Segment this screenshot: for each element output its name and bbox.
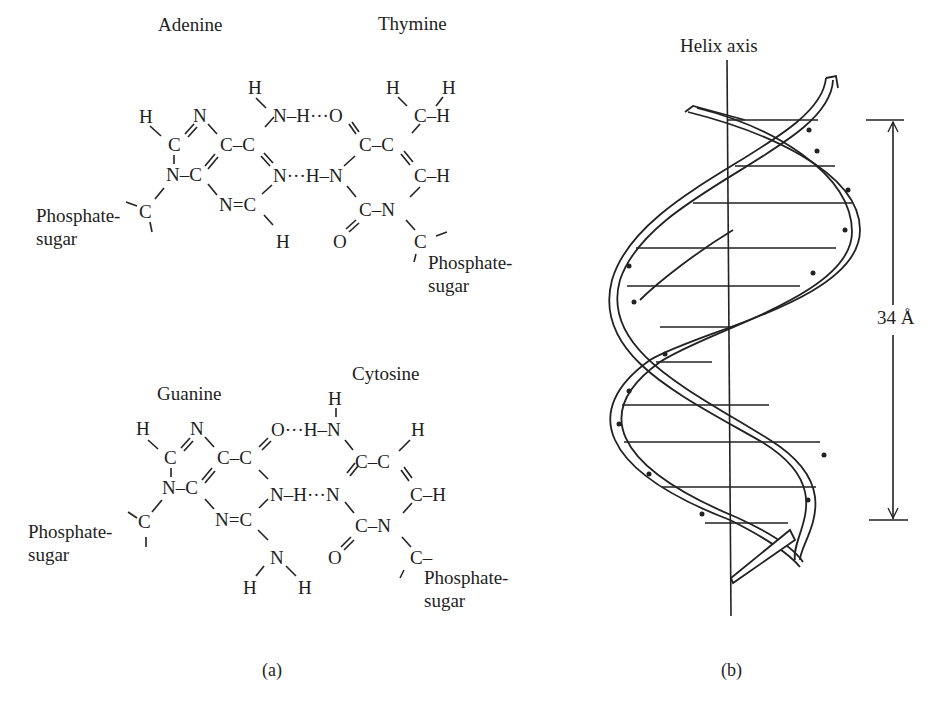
phosphate-dots	[617, 128, 851, 517]
base-pair-rungs	[622, 120, 852, 523]
helix-axis-line	[727, 60, 731, 616]
panel-b-caption: (b)	[721, 660, 742, 681]
panel-a-caption: (a)	[262, 660, 282, 681]
pitch-label: 34 Å	[877, 308, 914, 328]
bond-lines	[0, 0, 560, 640]
helix-axis-label: Helix axis	[680, 36, 758, 56]
